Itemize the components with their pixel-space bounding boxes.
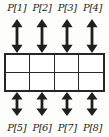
memory-grid [4,53,105,92]
grid-cell [55,55,79,73]
grid-cell [30,55,54,73]
bidirectional-arrow-icon [11,92,23,116]
bidirectional-arrow-icon [36,19,48,53]
port-label-p3: P[3] [58,2,77,13]
bottom-arrows [4,92,105,117]
port-label-p6: P[6] [32,122,51,133]
grid-cell [79,73,103,91]
port-label-p5: P[5] [7,122,26,133]
port-label-p8: P[8] [83,122,102,133]
bidirectional-arrow-icon [36,92,48,116]
port-label-p1: P[1] [7,2,26,13]
bidirectional-arrow-icon [86,92,98,116]
bottom-port-labels: P[5] P[6] P[7] P[8] [4,120,105,134]
grid-cell [6,73,30,91]
grid-cell [55,73,79,91]
port-label-p7: P[7] [58,122,77,133]
port-label-p2: P[2] [32,2,51,13]
grid-cell [30,73,54,91]
bidirectional-arrow-icon [86,19,98,53]
top-port-labels: P[1] P[2] P[3] P[4] [4,2,105,17]
grid-cell [79,55,103,73]
bidirectional-arrow-icon [61,92,73,116]
grid-cell [6,55,30,73]
port-label-p4: P[4] [83,2,102,13]
top-arrows [4,17,105,53]
bidirectional-arrow-icon [11,19,23,53]
bidirectional-arrow-icon [61,19,73,53]
multiport-memory-diagram: P[1] P[2] P[3] P[4] [0,0,109,137]
